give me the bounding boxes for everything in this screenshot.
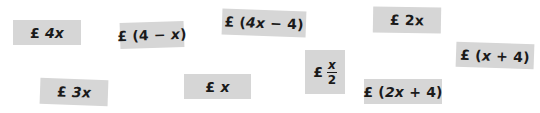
card-4-minus-x[interactable]: £ (4 − x) [120, 21, 185, 49]
card-label: £ 3x [57, 83, 92, 100]
card-3x[interactable]: £ 3x [40, 78, 109, 106]
fraction: x 2 [327, 59, 337, 86]
card-x-plus-4[interactable]: £ (x + 4) [456, 42, 535, 70]
card-2x-plus-4[interactable]: £ (2x + 4) [364, 79, 442, 104]
card-x-over-2[interactable]: £ x 2 [305, 50, 345, 94]
card-label: £ 4x [30, 25, 64, 41]
card-label: £ [313, 64, 323, 80]
card-label: £ 2x [390, 12, 424, 29]
card-4x-minus-4[interactable]: £ (4x − 4) [222, 9, 307, 38]
card-label: £ (2x + 4) [363, 84, 442, 100]
card-4x[interactable]: £ 4x [13, 20, 81, 45]
card-2x[interactable]: £ 2x [373, 6, 441, 33]
card-label: £ (x + 4) [460, 46, 530, 64]
card-label: £ (4 − x) [117, 26, 187, 44]
card-x[interactable]: £ x [184, 74, 251, 99]
card-label: £ (4x − 4) [224, 14, 304, 33]
card-label: £ x [205, 79, 229, 95]
